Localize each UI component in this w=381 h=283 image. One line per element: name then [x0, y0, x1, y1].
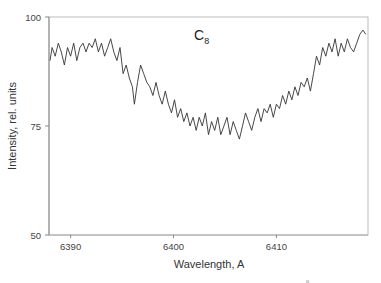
- x-ticks: 639064006410: [60, 235, 287, 252]
- y-ticks: 5075100: [25, 12, 49, 241]
- y-tick-label: 100: [25, 12, 41, 23]
- x-axis-title: Wavelength, A: [174, 258, 245, 270]
- x-tick-label: 6400: [163, 241, 184, 252]
- x-tick-label: 6390: [60, 241, 81, 252]
- y-axis-title: Intensity, rel. units: [6, 82, 18, 170]
- plot-area: [49, 17, 368, 235]
- y-tick-label: 50: [30, 230, 41, 241]
- spectrum-chart: 5075100 639064006410 C8 Wavelength, A In…: [0, 0, 381, 283]
- footnote-mark: o: [306, 278, 310, 283]
- x-tick-label: 6410: [266, 241, 287, 252]
- y-tick-label: 75: [30, 121, 41, 132]
